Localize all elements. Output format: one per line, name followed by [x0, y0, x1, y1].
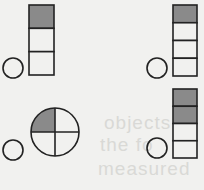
unshaded-part: [173, 141, 197, 158]
shaded-part: [173, 5, 197, 23]
shaded-part: [29, 5, 54, 28]
answer-circle-icon: [147, 58, 167, 78]
shaded-part: [173, 89, 197, 106]
answer-circle-icon: [147, 138, 167, 158]
shaded-part: [173, 106, 197, 123]
panel-top-right: [147, 5, 197, 78]
unshaded-part: [173, 23, 197, 41]
answer-circle-icon: [3, 140, 23, 160]
unshaded-part: [29, 28, 54, 51]
panel-top-left: [3, 5, 54, 78]
unshaded-part: [173, 58, 197, 76]
unshaded-part: [173, 124, 197, 141]
unshaded-part: [29, 52, 54, 75]
fraction-diagram: [0, 0, 204, 190]
panel-bottom-left: [3, 108, 79, 160]
panel-bottom-right: [147, 89, 197, 158]
answer-circle-icon: [3, 58, 23, 78]
unshaded-part: [173, 41, 197, 59]
